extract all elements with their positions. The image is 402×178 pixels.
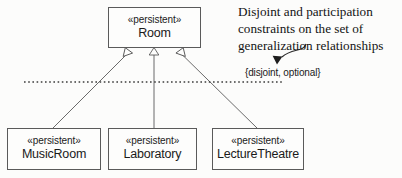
annotation-leader-arrowhead bbox=[273, 56, 283, 65]
uml-class-musicroom[interactable]: «persistent» MusicRoom bbox=[7, 128, 101, 170]
class-stereotype: «persistent» bbox=[27, 135, 80, 147]
constraint-label: {disjoint, optional} bbox=[245, 67, 320, 78]
annotation-note: Disjoint and participation constraints o… bbox=[238, 4, 383, 54]
class-name: MusicRoom bbox=[22, 147, 86, 162]
generalization-line-musicroom bbox=[53, 55, 127, 129]
annotation-line-2: constraints on the set of bbox=[238, 21, 383, 38]
uml-diagram-canvas: «persistent» Room «persistent» MusicRoom… bbox=[0, 0, 402, 178]
annotation-line-1: Disjoint and participation bbox=[238, 4, 383, 21]
uml-class-lecturetheatre[interactable]: «persistent» LectureTheatre bbox=[212, 128, 304, 170]
class-stereotype: «persistent» bbox=[126, 135, 179, 147]
generalization-line-lecturetheatre bbox=[182, 55, 257, 129]
class-name: LectureTheatre bbox=[217, 147, 299, 162]
class-stereotype: «persistent» bbox=[231, 135, 284, 147]
annotation-line-3: generalization relationships bbox=[238, 38, 383, 55]
uml-class-laboratory[interactable]: «persistent» Laboratory bbox=[108, 128, 197, 170]
uml-class-room[interactable]: «persistent» Room bbox=[108, 7, 201, 48]
class-name: Room bbox=[138, 26, 171, 41]
class-stereotype: «persistent» bbox=[128, 14, 181, 26]
generalization-arrowhead-laboratory bbox=[149, 48, 159, 56]
class-name: Laboratory bbox=[124, 147, 182, 162]
